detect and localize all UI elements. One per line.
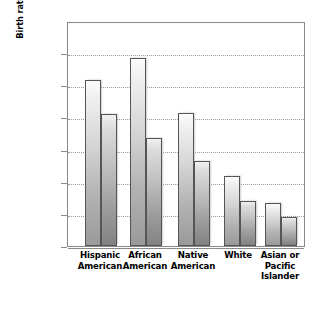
bar	[85, 80, 101, 246]
bar	[101, 114, 117, 246]
x-axis-labels: HispanicAmericanAfricanAmericanNativeAme…	[0, 250, 332, 312]
bars-layer	[68, 23, 304, 246]
bar-group	[178, 113, 210, 246]
bar	[281, 217, 297, 246]
bar-chart: Birth rate per 1,000 women ages 15–19 ye…	[0, 0, 332, 315]
bar	[240, 201, 256, 246]
y-tick-mark	[61, 247, 67, 248]
bar	[224, 176, 240, 246]
bar-group	[85, 80, 117, 246]
bar-group	[130, 58, 162, 246]
x-axis-label-line: Islander	[246, 271, 314, 282]
x-axis-label-line: American	[159, 261, 227, 272]
x-axis-label-line: Asian or	[246, 250, 314, 261]
bar-group	[265, 203, 297, 246]
bar	[194, 161, 210, 246]
plot-area	[67, 22, 305, 247]
bar	[130, 58, 146, 246]
gridline	[68, 248, 304, 249]
y-axis-title: Birth rate per 1,000 women ages 15–19 ye…	[12, 0, 40, 62]
bar	[265, 203, 281, 246]
y-axis-title-line-1: Birth rate per 1,000 women ages	[15, 0, 26, 39]
bar-group	[224, 176, 256, 246]
x-axis-label-line: Pacific	[246, 261, 314, 272]
x-axis-label: Asian orPacificIslander	[246, 250, 314, 282]
bar	[146, 138, 162, 246]
bar	[178, 113, 194, 246]
